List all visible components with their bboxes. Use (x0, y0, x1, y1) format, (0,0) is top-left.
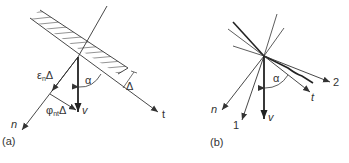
label-n: n (11, 118, 17, 130)
t-axis (30, 18, 158, 112)
panel-a: εnΔ φntΔ α Δ v n t (a) (2, 6, 165, 147)
line-upper-left (228, 29, 264, 56)
thick-wavy-line (264, 56, 313, 83)
label-v: v (82, 104, 89, 116)
diagram-canvas: εnΔ φntΔ α Δ v n t (a) α 2 t n 1 v (b) (0, 0, 349, 163)
label-2: 2 (333, 76, 339, 88)
band-end-edge (118, 68, 128, 74)
label-phi: φntΔ (46, 104, 67, 117)
caption-a: (a) (2, 135, 15, 147)
band-upper-edge (40, 10, 128, 68)
arrow-n (222, 56, 264, 110)
delta-tick (131, 71, 137, 73)
label-1: 1 (233, 119, 239, 131)
label-v-b: v (268, 111, 275, 123)
caption-b: (b) (210, 136, 223, 148)
label-t: t (162, 108, 165, 120)
arrow-t (264, 56, 310, 92)
label-t-b: t (311, 91, 315, 103)
line-up-right-1 (264, 14, 277, 56)
line-up-right-2 (264, 28, 284, 56)
n-axis-extension (78, 6, 107, 57)
label-delta: Δ (126, 80, 134, 92)
arrow-1 (242, 56, 264, 120)
label-epsilon: εnΔ (37, 69, 54, 82)
label-alpha-b: α (273, 72, 280, 84)
panel-b: α 2 t n 1 v (b) (210, 14, 339, 148)
epsilon-arrow (52, 57, 78, 91)
label-alpha: α (85, 74, 92, 86)
figure: εnΔ φntΔ α Δ v n t (a) α 2 t n 1 v (b) (0, 0, 349, 163)
label-n-b: n (211, 103, 217, 115)
